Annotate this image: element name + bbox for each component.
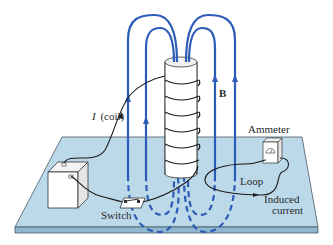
label-ammeter: Ammeter — [248, 123, 290, 135]
arrow-up-icon — [232, 74, 238, 82]
switch-icon — [120, 198, 145, 208]
coil — [165, 57, 200, 178]
arrow-up-icon — [212, 74, 218, 82]
ammeter-icon — [263, 138, 282, 163]
label-field-b: B — [219, 87, 227, 99]
induction-diagram: I (coil) B Ammeter Loop Induced current … — [0, 0, 333, 245]
label-loop: Loop — [240, 175, 264, 187]
label-switch: Switch — [101, 209, 132, 221]
label-current: current — [272, 204, 303, 216]
label-coil-current: I (coil) — [91, 110, 125, 123]
arrow-up-icon — [143, 116, 149, 124]
